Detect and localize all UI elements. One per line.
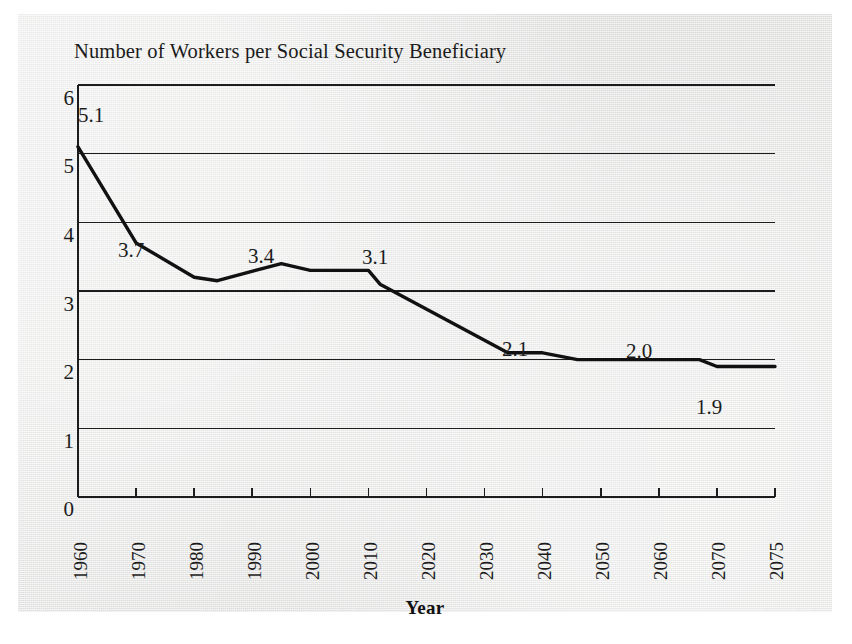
y-tick-label: 3	[40, 294, 74, 315]
x-tick-label: 2070	[709, 542, 728, 580]
scanned-page: Number of Workers per Social Security Be…	[18, 14, 832, 612]
x-axis-title: Year	[18, 597, 832, 619]
y-tick-label: 4	[40, 225, 74, 246]
y-tick-label: 5	[40, 156, 74, 177]
x-tick-label: 2020	[419, 542, 438, 580]
x-tick-label: 2040	[535, 542, 554, 580]
x-axis-ticks	[78, 488, 775, 497]
x-tick-label: 1980	[187, 542, 206, 580]
x-tick-label: 2060	[651, 542, 670, 580]
x-tick-label: 1990	[245, 542, 264, 580]
y-tick-label: 0	[40, 499, 74, 520]
x-tick-label: 2030	[477, 542, 496, 580]
x-tick-label: 2075	[767, 542, 786, 580]
data-point-label-2-0: 2.0	[626, 341, 652, 362]
data-point-label-5-1: 5.1	[78, 105, 104, 126]
x-tick-label: 2000	[303, 542, 322, 580]
data-line-series	[78, 147, 775, 367]
data-point-label-2-1: 2.1	[502, 339, 528, 360]
series-line-workers-per-beneficiary	[78, 147, 775, 367]
line-chart-plot	[18, 14, 832, 612]
y-tick-label: 2	[40, 362, 74, 383]
x-tick-label: 2050	[593, 542, 612, 580]
data-point-label-1-9: 1.9	[696, 397, 722, 418]
chart-figure: Number of Workers per Social Security Be…	[18, 14, 832, 612]
gridlines	[78, 85, 775, 428]
y-tick-label: 1	[40, 431, 74, 452]
data-point-label-3-7: 3.7	[118, 240, 144, 261]
x-tick-label: 1960	[71, 542, 90, 580]
data-point-label-3-1: 3.1	[362, 247, 388, 268]
y-tick-label: 6	[40, 88, 74, 109]
data-point-label-3-4: 3.4	[248, 246, 274, 267]
x-tick-label: 2010	[361, 542, 380, 580]
x-tick-label: 1970	[129, 542, 148, 580]
